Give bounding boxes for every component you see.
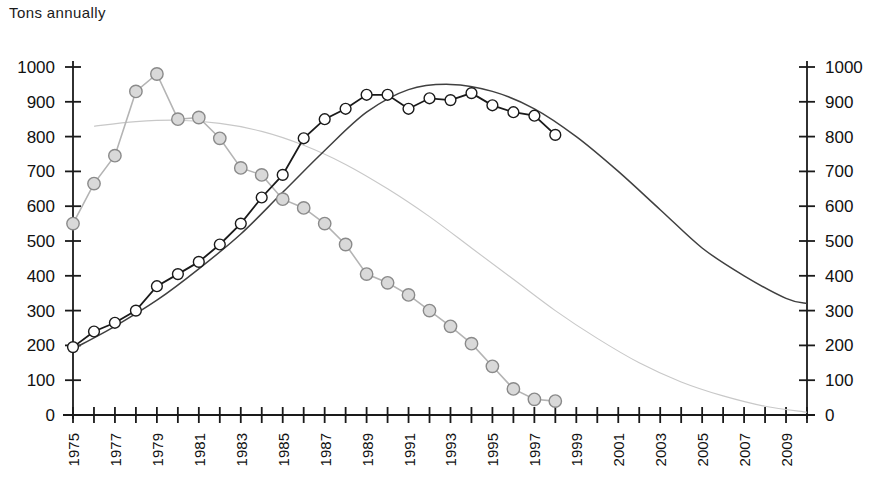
y-tick-label-right-600: 600 [825,197,853,216]
data-point [89,326,100,337]
data-point [110,317,121,328]
data-point [214,132,226,144]
data-point [360,268,372,280]
y-tick-label-right-300: 300 [825,302,853,321]
data-point [528,393,540,405]
y-tick-label-right-100: 100 [825,371,853,390]
x-tick-label-1983: 1983 [233,433,250,466]
data-point [340,103,351,114]
data-point [193,257,204,268]
data-point [172,113,184,125]
data-point [193,111,205,123]
data-point [381,277,393,289]
y-tick-label-left-700: 700 [27,162,55,181]
data-point [550,130,561,141]
data-point [235,162,247,174]
x-tick-label-1993: 1993 [442,433,459,466]
trendline-1 [73,84,807,349]
data-point [298,202,310,214]
data-point [424,93,435,104]
y-tick-label-right-200: 200 [825,336,853,355]
x-tick-label-1991: 1991 [401,433,418,466]
data-point [319,217,331,229]
x-tick-label-2003: 2003 [652,433,669,466]
data-point [444,320,456,332]
data-point [507,383,519,395]
data-point [130,85,142,97]
data-point [403,103,414,114]
y-tick-label-left-0: 0 [46,406,55,425]
x-tick-label-1999: 1999 [568,433,585,466]
data-point [88,177,100,189]
y-tick-label-right-800: 800 [825,128,853,147]
y-tick-label-right-400: 400 [825,267,853,286]
data-point [423,304,435,316]
x-tick-label-2001: 2001 [610,433,627,466]
data-point [67,217,79,229]
y-tick-label-right-700: 700 [825,162,853,181]
y-tick-label-left-800: 800 [27,128,55,147]
data-point [151,68,163,80]
data-point [466,88,477,99]
data-point [549,395,561,407]
data-point [256,169,268,181]
y-tick-label-left-500: 500 [27,232,55,251]
data-point [508,107,519,118]
x-tick-label-1985: 1985 [275,433,292,466]
y-tick-label-left-900: 900 [27,93,55,112]
x-tick-label-1979: 1979 [149,433,166,466]
chart-container: Tons annually 01002003004005006007008009… [0,0,888,483]
y-tick-label-left-300: 300 [27,302,55,321]
data-point [277,193,289,205]
data-point [152,281,163,292]
data-point [109,150,121,162]
y-tick-label-left-100: 100 [27,371,55,390]
data-point [277,170,288,181]
y-tick-label-right-0: 0 [825,406,834,425]
data-point [173,269,184,280]
chart-plot: 0100200300400500600700800900100001002003… [0,0,888,483]
data-point [68,342,79,353]
data-point [465,338,477,350]
x-tick-label-1997: 1997 [526,433,543,466]
data-point [361,89,372,100]
data-point [445,95,456,106]
series-line-0 [73,74,555,401]
x-tick-label-1977: 1977 [107,433,124,466]
x-tick-label-1975: 1975 [65,433,82,466]
data-point [402,289,414,301]
x-tick-label-2007: 2007 [736,433,753,466]
data-point [298,133,309,144]
data-point [529,110,540,121]
x-tick-label-1995: 1995 [484,433,501,466]
data-point [487,100,498,111]
x-tick-label-1981: 1981 [191,433,208,466]
y-tick-label-right-900: 900 [825,93,853,112]
y-tick-label-left-600: 600 [27,197,55,216]
data-point [235,218,246,229]
data-point [256,192,267,203]
y-tick-label-left-1000: 1000 [17,58,55,77]
y-tick-label-right-500: 500 [825,232,853,251]
y-tick-label-right-1000: 1000 [825,58,863,77]
y-tick-label-left-400: 400 [27,267,55,286]
x-tick-label-2009: 2009 [778,433,795,466]
x-tick-label-1989: 1989 [359,433,376,466]
x-tick-label-1987: 1987 [317,433,334,466]
data-point [319,114,330,125]
data-point [382,89,393,100]
data-point [214,239,225,250]
data-point [131,305,142,316]
data-point [339,238,351,250]
y-tick-label-left-200: 200 [27,336,55,355]
series-line-1 [73,93,555,347]
data-point [486,360,498,372]
x-tick-label-2005: 2005 [694,433,711,466]
